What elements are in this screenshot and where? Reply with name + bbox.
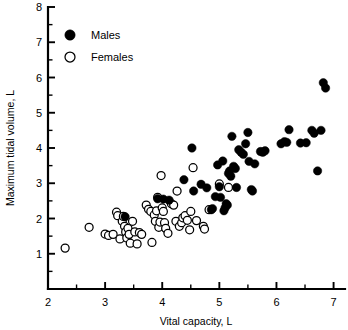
data-point-male [121, 213, 129, 221]
legend-label-males: Males [91, 29, 121, 41]
y-tick-label: 2 [36, 213, 42, 225]
x-axis-title: Vital capacity, L [160, 315, 233, 327]
data-point-male [165, 196, 173, 204]
axes [48, 7, 345, 289]
data-point-female [201, 225, 209, 233]
data-point-male [215, 183, 223, 191]
data-point-female [187, 207, 195, 215]
data-point-female [189, 164, 197, 172]
data-point-male [283, 138, 291, 146]
y-axis-tick-labels: 12345678 [36, 1, 42, 260]
data-point-male [317, 126, 325, 134]
data-point-male [248, 187, 256, 195]
data-point-male [227, 172, 235, 180]
data-point-male [203, 184, 211, 192]
data-point-female [138, 230, 146, 238]
data-point-male [241, 140, 249, 148]
legend-marker-males [65, 30, 75, 40]
scatter-plot-figure: 12345678 234567 Males Females Vital capa… [0, 0, 348, 330]
data-point-female [224, 183, 232, 191]
data-point-female [183, 216, 191, 224]
data-point-male [302, 139, 310, 147]
data-point-male [180, 176, 188, 184]
data-point-male [208, 204, 216, 212]
x-tick-label: 5 [216, 296, 222, 308]
x-tick-label: 6 [273, 296, 279, 308]
data-point-female [133, 240, 141, 248]
x-tick-label: 7 [331, 296, 337, 308]
x-tick-label: 3 [102, 296, 108, 308]
data-point-male [219, 157, 227, 165]
y-tick-label: 7 [36, 36, 42, 48]
y-tick-label: 5 [36, 107, 42, 119]
data-point-male [321, 84, 329, 92]
x-axis-tick-labels: 234567 [45, 296, 337, 308]
data-point-female [148, 238, 156, 246]
data-point-male [223, 201, 231, 209]
x-tick-label: 4 [159, 296, 165, 308]
y-tick-label: 6 [36, 72, 42, 84]
data-point-male [313, 167, 321, 175]
data-series-males [121, 79, 330, 221]
data-point-female [159, 207, 167, 215]
data-point-female [193, 217, 201, 225]
data-point-male [188, 144, 196, 152]
legend: Males Females [65, 29, 134, 63]
data-point-female [186, 226, 194, 234]
data-point-female [157, 172, 165, 180]
data-point-female [61, 244, 69, 252]
data-point-male [231, 164, 239, 172]
data-point-female [173, 187, 181, 195]
y-tick-label: 4 [36, 142, 42, 154]
data-point-male [251, 160, 259, 168]
y-tick-label: 8 [36, 1, 42, 13]
y-tick-label: 1 [36, 248, 42, 260]
legend-marker-females [65, 52, 75, 62]
data-point-male [244, 128, 252, 136]
data-point-male [261, 147, 269, 155]
data-point-male [239, 150, 247, 158]
x-tick-label: 2 [45, 296, 51, 308]
legend-label-females: Females [91, 51, 134, 63]
data-point-male [189, 187, 197, 195]
data-point-male [228, 132, 236, 140]
data-point-male [285, 125, 293, 133]
data-point-male [232, 183, 240, 191]
chart-canvas: 12345678 234567 Males Females Vital capa… [0, 0, 348, 330]
data-point-female [129, 217, 137, 225]
y-tick-label: 3 [36, 177, 42, 189]
data-point-female [164, 229, 172, 237]
data-point-female [85, 223, 93, 231]
y-axis-title: Maximum tidal volume, L [4, 90, 16, 206]
data-series-females [61, 164, 232, 252]
